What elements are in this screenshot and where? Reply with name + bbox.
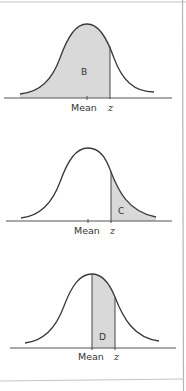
z-label-d: z	[113, 351, 120, 362]
panel-d: D Mean z	[10, 274, 176, 362]
panel-c: C Mean z	[6, 148, 172, 236]
mean-label-d: Mean	[78, 351, 104, 362]
bell-curve-c	[21, 148, 156, 218]
z-label-c: z	[109, 225, 116, 236]
region-label-d: D	[99, 332, 106, 342]
right-border	[183, 0, 184, 391]
mean-label-c: Mean	[74, 225, 100, 236]
shaded-region-b	[20, 24, 110, 98]
region-label-c: C	[118, 206, 124, 216]
z-label-b: z	[107, 102, 114, 113]
bottom-border	[0, 379, 184, 381]
normal-distribution-diagrams: B Mean z C Mean z D Mean z	[0, 0, 186, 391]
mean-label-b: Mean	[71, 102, 97, 113]
figure-frame: B Mean z C Mean z D Mean z	[0, 0, 186, 391]
panel-b: B Mean z	[4, 24, 172, 113]
region-label-b: B	[81, 67, 87, 77]
